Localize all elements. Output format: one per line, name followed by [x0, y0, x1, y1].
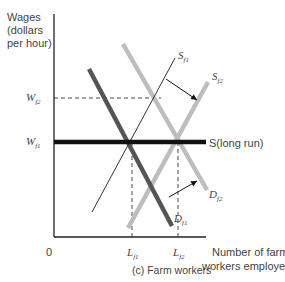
y-axis-label: (dollars	[7, 24, 44, 36]
label-s-long-run: S(long run)	[209, 137, 263, 149]
origin-label: 0	[46, 246, 52, 258]
shift-arrow	[166, 79, 197, 100]
chart-canvas: Wages(dollarsper hour)Sf1Sf2Df2Df1S(long…	[0, 0, 285, 282]
label-s-f1: Sf1	[178, 49, 189, 64]
label-d-f1: Df1	[173, 212, 187, 227]
y-tick-f1: Wf1	[26, 135, 41, 150]
x-axis-label: workers employed	[201, 260, 285, 272]
y-axis-label: Wages	[7, 11, 41, 23]
curve-d-f2	[123, 44, 207, 190]
chart-farm-workers: Wages(dollarsper hour)Sf1Sf2Df2Df1S(long…	[0, 0, 285, 282]
chart-caption: (c) Farm workers	[132, 264, 211, 276]
y-axis-label: per hour)	[7, 37, 52, 49]
curve-d-f1	[89, 69, 172, 226]
label-d-f2: Df2	[208, 188, 223, 203]
shift-arrow	[169, 181, 197, 197]
curve-s-f2	[128, 82, 208, 228]
x-axis-label: Number of farm	[212, 246, 285, 258]
label-s-f2: Sf2	[212, 70, 223, 85]
x-tick-f2: Lf2	[172, 246, 185, 261]
x-tick-f1: Lf1	[126, 246, 139, 261]
curve-s-f1	[92, 58, 175, 212]
y-tick-f2: Wf2	[26, 91, 41, 106]
